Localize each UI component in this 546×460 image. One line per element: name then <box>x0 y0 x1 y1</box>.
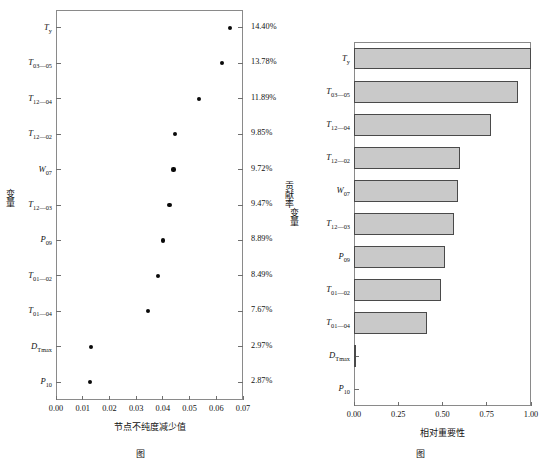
figure-caption-right: 图 <box>300 447 540 460</box>
ycat-label-right: W07 <box>302 185 350 197</box>
bar <box>354 114 491 136</box>
ytick-mark-right-axis-left <box>238 382 243 383</box>
xaxis-title-left: 节点不纯度减少值 <box>114 420 186 433</box>
ytick-mark-right-axis-left <box>238 169 243 170</box>
ycat-label-right: T01—02 <box>302 284 350 296</box>
xtick-mark-left <box>162 396 163 400</box>
ycat-label-left: W07 <box>6 164 52 176</box>
ytick-mark-left <box>56 240 61 241</box>
bar <box>354 213 454 235</box>
data-point <box>171 167 175 171</box>
contribution-pct-label: 14.40% <box>251 22 277 31</box>
ycat-label-right: T01—04 <box>302 317 350 329</box>
ytick-mark-right-axis-left <box>238 205 243 206</box>
ytick-mark-right <box>354 389 359 390</box>
yaxis-title-right: 变量 <box>288 208 301 226</box>
xtick-mark-right <box>486 402 487 406</box>
ycat-label-left: Ty <box>6 22 52 34</box>
ytick-mark-left <box>56 98 61 99</box>
xtick-label-left: 0.07 <box>229 404 257 413</box>
contribution-pct-label: 11.89% <box>251 93 276 102</box>
ycat-label-left: T03—05 <box>6 57 52 69</box>
contribution-pct-label: 7.67% <box>251 305 272 314</box>
ytick-mark-left <box>56 275 61 276</box>
data-point <box>167 203 171 207</box>
contribution-pct-label: 13.78% <box>251 57 277 66</box>
ytick-mark-left <box>56 63 61 64</box>
ytick-mark-right-axis-left <box>238 346 243 347</box>
bar <box>354 180 458 202</box>
ycat-label-right: Ty <box>302 53 350 65</box>
ycat-label-left: T12—02 <box>6 128 52 140</box>
xtick-mark-left <box>109 396 110 400</box>
xtick-label-left: 0.02 <box>95 404 123 413</box>
xtick-mark-left <box>136 396 137 400</box>
xtick-label-left: 0.03 <box>122 404 150 413</box>
ytick-mark-left <box>56 205 61 206</box>
ytick-mark-right-axis-left <box>238 134 243 135</box>
contribution-pct-label: 8.49% <box>251 270 272 279</box>
contribution-pct-label: 8.89% <box>251 234 272 243</box>
ycat-label-right: T03—05 <box>302 86 350 98</box>
bar <box>354 48 531 70</box>
data-point <box>220 61 224 65</box>
ytick-mark-right-axis-left <box>238 63 243 64</box>
ytick-mark-left <box>56 311 61 312</box>
xtick-label-right: 0.00 <box>340 410 368 419</box>
xtick-mark-left <box>189 396 190 400</box>
ytick-mark-right-axis-left <box>238 27 243 28</box>
bar <box>354 81 518 103</box>
ycat-label-right: T12—03 <box>302 218 350 230</box>
xtick-mark-right <box>354 402 355 406</box>
xtick-label-left: 0.06 <box>202 404 230 413</box>
ycat-label-right: T12—02 <box>302 152 350 164</box>
ytick-mark-left <box>56 27 61 28</box>
ytick-mark-right-axis-left <box>238 98 243 99</box>
ycat-label-left: T01—04 <box>6 305 52 317</box>
ycat-label-right: T12—04 <box>302 119 350 131</box>
ytick-mark-left <box>56 169 61 170</box>
xtick-label-left: 0.04 <box>149 404 177 413</box>
yaxis2-title-contribution: 贡献率 <box>283 181 296 208</box>
contribution-pct-label: 2.97% <box>251 341 272 350</box>
yaxis-title-left: 变量 <box>4 189 17 207</box>
bar <box>354 279 441 301</box>
xtick-label-left: 0.01 <box>69 404 97 413</box>
xtick-mark-right <box>398 402 399 406</box>
xtick-mark-left <box>243 396 244 400</box>
ytick-mark-left <box>56 346 61 347</box>
ycat-label-left: DTmax <box>6 341 52 353</box>
bar <box>354 345 356 367</box>
ycat-label-right: P10 <box>302 383 350 395</box>
xtick-mark-right <box>531 402 532 406</box>
data-point <box>89 345 93 349</box>
ycat-label-right: DTmax <box>302 350 350 362</box>
ycat-label-right: P09 <box>302 251 350 263</box>
ycat-label-left: T12—04 <box>6 93 52 105</box>
ycat-label-left: T01—02 <box>6 270 52 282</box>
contribution-pct-label: 9.47% <box>251 199 272 208</box>
xtick-label-right: 0.75 <box>473 410 501 419</box>
bar <box>354 147 460 169</box>
xtick-mark-left <box>216 396 217 400</box>
ytick-mark-left <box>56 134 61 135</box>
ytick-mark-right-axis-left <box>238 311 243 312</box>
figure-caption-left: 图 <box>20 447 260 460</box>
ytick-mark-right-axis-left <box>238 240 243 241</box>
bar <box>354 246 445 268</box>
ycat-label-left: P10 <box>6 376 52 388</box>
contribution-pct-label: 9.72% <box>251 164 272 173</box>
data-point <box>161 238 165 242</box>
xtick-label-right: 0.25 <box>384 410 412 419</box>
ytick-mark-left <box>56 382 61 383</box>
xtick-label-right: 0.50 <box>429 410 457 419</box>
ycat-label-left: P09 <box>6 234 52 246</box>
xaxis-title-right: 相对重要性 <box>407 426 479 439</box>
xtick-label-left: 0.00 <box>42 404 70 413</box>
xtick-label-right: 1.00 <box>517 410 545 419</box>
xtick-label-left: 0.05 <box>176 404 204 413</box>
data-point <box>197 97 201 101</box>
xtick-mark-left <box>82 396 83 400</box>
xtick-mark-right <box>442 402 443 406</box>
